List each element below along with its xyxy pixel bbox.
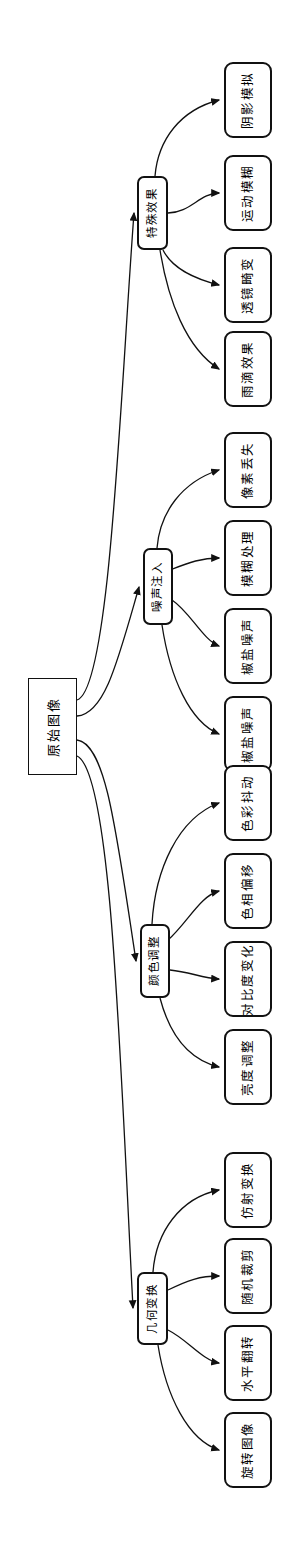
edge-root-to-cat-geometric-transform <box>77 756 133 1308</box>
node-leaf-leaf-shadow-simulation[interactable]: 阴影模拟 <box>224 62 272 138</box>
node-leaf-leaf-motion-blur-label: 运动模糊 <box>242 164 255 222</box>
node-root-original-image[interactable]: 原始图像 <box>28 678 77 775</box>
node-category-cat-noise-injection-label: 噪声注入 <box>152 562 164 612</box>
edge-root-to-cat-color-adjustment <box>77 740 136 961</box>
edge-root-to-cat-noise-injection <box>77 587 139 716</box>
node-leaf-leaf-random-crop[interactable]: 随机裁剪 <box>224 1238 272 1314</box>
node-leaf-leaf-affine-transform[interactable]: 仿射变换 <box>224 1152 272 1228</box>
edge-cat-geometric-transform-to-leaf-horizontal-flip <box>168 1330 219 1363</box>
node-leaf-leaf-brightness-adjust[interactable]: 亮度调整 <box>224 1029 272 1105</box>
edge-cat-color-adjustment-to-leaf-brightness-adjust <box>160 998 219 1067</box>
node-leaf-leaf-brightness-adjust-label: 亮度调整 <box>242 1038 255 1096</box>
node-leaf-leaf-contrast-change-label: 对比度变化 <box>242 943 255 1016</box>
node-category-cat-color-adjustment-label: 颜色调整 <box>149 936 161 986</box>
node-leaf-leaf-color-jitter[interactable]: 色彩抖动 <box>224 765 272 841</box>
node-category-cat-special-effects-label: 特殊效果 <box>147 188 159 238</box>
edge-cat-geometric-transform-to-leaf-random-crop <box>168 1276 219 1290</box>
node-leaf-leaf-pixel-loss-label: 像素丢失 <box>242 441 255 499</box>
edge-cat-special-effects-to-leaf-motion-blur <box>168 193 219 213</box>
node-root-original-image-label: 原始图像 <box>46 697 59 757</box>
edge-cat-color-adjustment-to-leaf-contrast-change <box>170 970 219 979</box>
node-leaf-leaf-salt-pepper-2[interactable]: 椒盐噪声 <box>224 696 272 772</box>
node-leaf-leaf-hue-shift-label: 色相偏移 <box>242 862 255 920</box>
node-leaf-leaf-affine-transform-label: 仿射变换 <box>242 1161 255 1219</box>
node-leaf-leaf-horizontal-flip-label: 水平翻转 <box>242 1334 255 1392</box>
flowchart-canvas: 原始图像特殊效果阴影模拟运动模糊透镜畸变雨滴效果噪声注入像素丢失模糊处理椒盐噪声… <box>0 0 291 1550</box>
node-leaf-leaf-salt-pepper-1[interactable]: 椒盐噪声 <box>224 608 272 684</box>
edge-cat-geometric-transform-to-leaf-rotate-image <box>158 1345 219 1450</box>
node-leaf-leaf-horizontal-flip[interactable]: 水平翻转 <box>224 1325 272 1401</box>
node-leaf-leaf-rotate-image-label: 旋转图像 <box>242 1421 255 1479</box>
node-category-cat-color-adjustment[interactable]: 颜色调整 <box>140 924 170 998</box>
edge-cat-special-effects-to-leaf-lens-distortion <box>163 250 219 285</box>
node-leaf-leaf-random-crop-label: 随机裁剪 <box>242 1247 255 1305</box>
node-leaf-leaf-shadow-simulation-label: 阴影模拟 <box>242 71 255 129</box>
node-leaf-leaf-rain-effect-label: 雨滴效果 <box>242 340 255 398</box>
edge-cat-special-effects-to-leaf-shadow-simulation <box>155 100 219 176</box>
edge-cat-color-adjustment-to-leaf-color-jitter <box>152 803 219 924</box>
node-leaf-leaf-blur-processing[interactable]: 模糊处理 <box>224 520 272 596</box>
node-leaf-leaf-salt-pepper-2-label: 椒盐噪声 <box>242 705 255 763</box>
node-leaf-leaf-contrast-change[interactable]: 对比度变化 <box>224 941 272 1017</box>
node-leaf-leaf-lens-distortion[interactable]: 透镜畸变 <box>224 247 272 323</box>
edge-cat-noise-injection-to-leaf-pixel-loss <box>157 470 219 548</box>
node-category-cat-geometric-transform[interactable]: 几何变换 <box>137 1272 168 1345</box>
edge-root-to-cat-special-effects <box>77 213 134 700</box>
node-leaf-leaf-pixel-loss[interactable]: 像素丢失 <box>224 432 272 508</box>
node-leaf-leaf-color-jitter-label: 色彩抖动 <box>242 774 255 832</box>
node-leaf-leaf-rotate-image[interactable]: 旋转图像 <box>224 1412 272 1488</box>
edge-cat-noise-injection-to-leaf-salt-pepper-1 <box>172 600 219 646</box>
node-leaf-leaf-salt-pepper-1-label: 椒盐噪声 <box>242 617 255 675</box>
node-category-cat-special-effects[interactable]: 特殊效果 <box>137 176 168 250</box>
node-leaf-leaf-motion-blur[interactable]: 运动模糊 <box>224 155 272 231</box>
edge-cat-special-effects-to-leaf-rain-effect <box>160 250 219 369</box>
edge-cat-color-adjustment-to-leaf-hue-shift <box>168 891 219 940</box>
node-category-cat-geometric-transform-label: 几何变换 <box>147 1284 159 1334</box>
node-leaf-leaf-hue-shift[interactable]: 色相偏移 <box>224 853 272 929</box>
node-leaf-leaf-lens-distortion-label: 透镜畸变 <box>242 256 255 314</box>
node-category-cat-noise-injection[interactable]: 噪声注入 <box>143 548 173 625</box>
edges-group <box>77 100 219 1450</box>
node-leaf-leaf-rain-effect[interactable]: 雨滴效果 <box>224 331 272 407</box>
node-leaf-leaf-blur-processing-label: 模糊处理 <box>242 529 255 587</box>
edge-cat-geometric-transform-to-leaf-affine-transform <box>153 1190 219 1272</box>
edge-cat-noise-injection-to-leaf-blur-processing <box>170 558 219 570</box>
